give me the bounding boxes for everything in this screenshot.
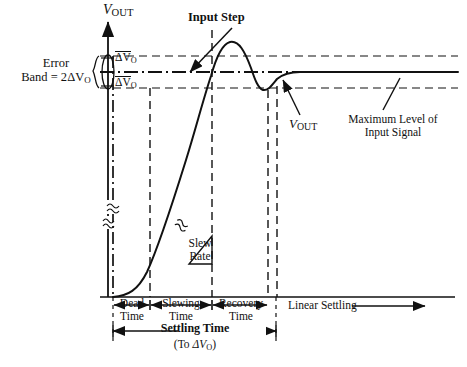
curve-break-icon bbox=[173, 216, 190, 233]
slew-rate-line1: Slew bbox=[189, 237, 212, 249]
error-band-line2-prefix: Band = 2 bbox=[21, 70, 67, 84]
y-axis-label-sub: OUT bbox=[112, 7, 134, 18]
slew-rate-label: Slew Rate bbox=[180, 237, 220, 263]
dead-time-label: Dead Time bbox=[117, 297, 147, 323]
vout-response-curve bbox=[113, 42, 458, 297]
vout-curve-label: VOUT bbox=[289, 117, 317, 132]
settling-tol-close: ) bbox=[212, 338, 216, 350]
figure-canvas: VOUT Input Step Error Band = 2ΔVO ΔVO ΔV… bbox=[0, 0, 467, 367]
upper-delta-sub: O bbox=[131, 56, 137, 65]
error-band-line2-delta: ΔV bbox=[67, 70, 84, 84]
error-band-line1: Error bbox=[43, 56, 69, 70]
dead-time-line1: Dead bbox=[120, 297, 144, 309]
max-level-line1: Maximum Level of bbox=[348, 113, 437, 125]
recovery-time-line2: Time bbox=[229, 310, 253, 322]
error-band-label: Error Band = 2ΔVO bbox=[17, 56, 95, 85]
max-level-line2: Input Signal bbox=[365, 126, 422, 138]
input-step-leader-arrow bbox=[190, 28, 232, 72]
dead-time-line2: Time bbox=[120, 310, 144, 322]
error-band-line2-sub: O bbox=[84, 75, 91, 85]
vout-leader-line bbox=[283, 80, 300, 115]
y-axis-label: VOUT bbox=[103, 2, 133, 19]
max-level-label: Maximum Level of Input Signal bbox=[333, 113, 453, 139]
slewing-time-line1: Slewing bbox=[162, 297, 200, 309]
lower-delta-sub: O bbox=[131, 81, 137, 90]
upper-delta-value: ΔV bbox=[115, 51, 131, 64]
settling-time-line1: Settling Time bbox=[161, 321, 230, 335]
slewing-time-label: Slewing Time bbox=[154, 297, 208, 323]
settling-time-tolerance-label: (To ΔVO) bbox=[150, 338, 240, 352]
lower-delta-label: ΔVO bbox=[115, 76, 137, 90]
input-step-label: Input Step bbox=[188, 10, 245, 24]
max-level-leader-line bbox=[383, 78, 400, 110]
lower-delta-value: ΔV bbox=[115, 76, 131, 89]
upper-delta-label: ΔVO bbox=[115, 51, 137, 65]
recovery-time-line1: Recovery bbox=[219, 297, 263, 309]
settling-time-label: Settling Time bbox=[150, 322, 240, 335]
recovery-time-label: Recovery Time bbox=[214, 297, 268, 323]
vout-curve-sub: OUT bbox=[297, 121, 317, 132]
linear-settling-label: Linear Settling bbox=[288, 299, 357, 312]
settling-tol-delta: ΔV bbox=[193, 338, 207, 350]
slew-rate-line2: Rate bbox=[189, 250, 210, 262]
y-axis-label-var: V bbox=[103, 2, 112, 17]
settling-tol-open: (To bbox=[174, 338, 193, 350]
vout-curve-var: V bbox=[289, 116, 297, 131]
